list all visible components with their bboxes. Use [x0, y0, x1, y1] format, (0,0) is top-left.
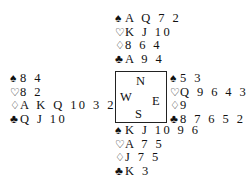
heart-icon: ♡: [115, 26, 125, 40]
south-diamonds-cards: J 7 5: [125, 151, 161, 165]
west-clubs-cards: Q J 10: [20, 113, 67, 127]
spade-icon: ♠: [115, 124, 125, 138]
west-diamonds-cards: A K Q 10 3 2: [20, 99, 116, 113]
compass-west-label: W: [120, 91, 132, 104]
diamond-icon: ♢: [115, 151, 125, 165]
south-clubs: ♣ K 3: [115, 165, 200, 179]
diamond-icon: ♢: [170, 99, 180, 113]
east-diamonds: ♢ 9: [170, 99, 248, 113]
south-clubs-cards: K 3: [125, 165, 151, 179]
diamond-icon: ♢: [10, 99, 20, 113]
club-icon: ♣: [115, 53, 125, 67]
diamond-icon: ♢: [115, 39, 125, 53]
north-hand: ♠ A Q 7 2 ♡ K J 10 ♢ 8 6 4 ♣ A 9 4: [115, 12, 181, 66]
north-hearts-cards: K J 10: [125, 26, 172, 40]
compass-south-label: S: [135, 108, 142, 121]
west-diamonds: ♢ A K Q 10 3 2: [10, 99, 116, 113]
west-hearts: ♡ 8 2: [10, 86, 116, 100]
east-spades: ♠ 5 3: [170, 72, 248, 86]
compass-north-label: N: [136, 75, 145, 88]
west-clubs: ♣ Q J 10: [10, 113, 116, 127]
east-hearts-cards: Q 9 6 4 3: [180, 86, 248, 100]
north-diamonds: ♢ 8 6 4: [115, 39, 181, 53]
compass-east-label: E: [152, 95, 160, 108]
west-spades-cards: 8 4: [20, 72, 43, 86]
south-hearts-cards: A 7 5: [125, 138, 164, 152]
heart-icon: ♡: [115, 138, 125, 152]
north-spades-cards: A Q 7 2: [125, 12, 181, 26]
north-spades: ♠ A Q 7 2: [115, 12, 181, 26]
south-hand: ♠ K J 10 9 6 ♡ A 7 5 ♢ J 7 5 ♣ K 3: [115, 124, 200, 178]
west-hearts-cards: 8 2: [20, 86, 43, 100]
north-clubs: ♣ A 9 4: [115, 53, 181, 67]
north-hearts: ♡ K J 10: [115, 26, 181, 40]
club-icon: ♣: [10, 113, 20, 127]
spade-icon: ♠: [10, 72, 20, 86]
south-spades: ♠ K J 10 9 6: [115, 124, 200, 138]
north-clubs-cards: A 9 4: [125, 53, 164, 67]
spade-icon: ♠: [170, 72, 180, 86]
heart-icon: ♡: [170, 86, 180, 100]
heart-icon: ♡: [10, 86, 20, 100]
east-diamonds-cards: 9: [180, 99, 189, 113]
south-diamonds: ♢ J 7 5: [115, 151, 200, 165]
east-hearts: ♡ Q 9 6 4 3: [170, 86, 248, 100]
east-spades-cards: 5 3: [180, 72, 203, 86]
north-diamonds-cards: 8 6 4: [125, 39, 162, 53]
south-spades-cards: K J 10 9 6: [125, 124, 200, 138]
east-hand: ♠ 5 3 ♡ Q 9 6 4 3 ♢ 9 ♣ 8 7 6 5 2: [170, 72, 248, 126]
west-hand: ♠ 8 4 ♡ 8 2 ♢ A K Q 10 3 2 ♣ Q J 10: [10, 72, 116, 126]
west-spades: ♠ 8 4: [10, 72, 116, 86]
compass-box: N W E S: [115, 71, 167, 123]
spade-icon: ♠: [115, 12, 125, 26]
south-hearts: ♡ A 7 5: [115, 138, 200, 152]
club-icon: ♣: [115, 165, 125, 179]
